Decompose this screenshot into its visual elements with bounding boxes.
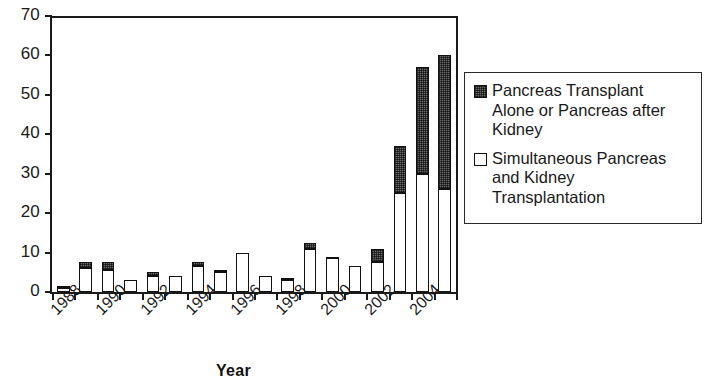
y-axis-tick-mark (45, 173, 52, 175)
y-axis-tick-mark (45, 15, 52, 17)
legend-swatch-white-icon (474, 153, 487, 166)
x-axis-title: Year (216, 362, 251, 380)
bar-1989 (79, 262, 92, 292)
y-axis-tick-mark (45, 252, 52, 254)
legend-label: Pancreas Transplant Alone or Pancreas af… (492, 81, 665, 140)
y-axis-tick-label: 60 (6, 44, 40, 64)
legend-item-simultaneous: Simultaneous Pancreas and Kidney Transpl… (474, 149, 695, 208)
x-axis-tick-mark (456, 293, 458, 300)
bar-2004 (416, 67, 429, 292)
legend-label: Simultaneous Pancreas and Kidney Transpl… (492, 149, 666, 208)
bar-2003 (394, 146, 407, 292)
y-axis-tick-label: 20 (6, 202, 40, 222)
y-axis-tick-mark (45, 133, 52, 135)
y-axis-tick-label: 30 (6, 163, 40, 183)
bar-1999 (304, 243, 317, 292)
bar-segment-pancreas-alone (371, 249, 384, 263)
y-axis-tick-mark (45, 291, 52, 293)
bar-segment-pancreas-alone (438, 55, 451, 189)
bar-chart: 010203040506070 198819901992199419961998… (0, 0, 705, 390)
bar-segment-simultaneous (304, 249, 317, 292)
bar-2005 (438, 55, 451, 292)
legend-item-pancreas-alone: Pancreas Transplant Alone or Pancreas af… (474, 81, 695, 140)
y-axis-tick-label: 70 (6, 5, 40, 25)
y-axis-tick-label: 0 (6, 281, 40, 301)
chart-legend: Pancreas Transplant Alone or Pancreas af… (464, 72, 702, 224)
y-axis-tick-mark (45, 54, 52, 56)
bar-segment-simultaneous (416, 174, 429, 292)
bar-segment-pancreas-alone (416, 67, 429, 173)
bar-segment-simultaneous (394, 193, 407, 292)
legend-swatch-dark-icon (474, 85, 487, 98)
y-axis-tick-label: 50 (6, 84, 40, 104)
bar-segment-pancreas-alone (102, 262, 115, 270)
bar-segment-simultaneous (438, 189, 451, 292)
y-axis-tick-label: 40 (6, 123, 40, 143)
y-axis-tick-mark (45, 212, 52, 214)
bar-segment-pancreas-alone (394, 146, 407, 193)
y-axis-tick-mark (45, 94, 52, 96)
y-axis-tick-label: 10 (6, 242, 40, 262)
